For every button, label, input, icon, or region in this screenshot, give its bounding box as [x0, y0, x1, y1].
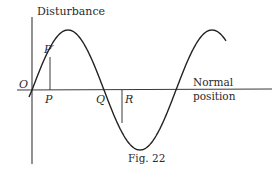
y-axis-label: Disturbance: [37, 5, 105, 18]
figure-caption: Fig. 22: [128, 152, 165, 164]
r-label: R: [124, 93, 133, 106]
wave-diagram: Disturbance O P′ P Q R Normal position F…: [0, 0, 279, 184]
origin-label: O: [19, 78, 28, 91]
p-label: P: [44, 93, 53, 106]
normal-label: Normal: [193, 76, 234, 88]
position-label: position: [193, 90, 236, 102]
p-prime-label: P′: [43, 43, 54, 56]
q-label: Q: [96, 93, 105, 106]
